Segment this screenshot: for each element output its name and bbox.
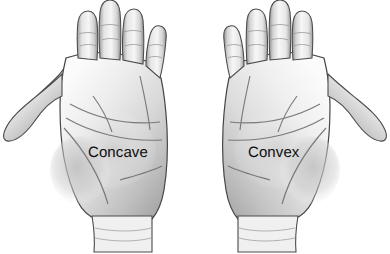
right-thenar-eminence [328,74,386,141]
label-convex: Convex [248,145,299,160]
hand-panel-convex [195,0,390,254]
left-thenar-eminence [4,74,62,141]
right-finger-middle [269,0,291,60]
left-hand-illustration [0,0,195,254]
left-hand-body [4,0,168,252]
right-wrist [238,216,298,252]
left-finger-ring [123,9,144,64]
figure-root: Concave Convex [0,0,390,254]
hand-panel-concave [0,0,195,254]
right-finger-ring [246,9,267,64]
right-hand-body [223,0,387,252]
label-concave: Concave [88,145,148,160]
left-wrist [92,216,152,252]
left-finger-middle [99,0,121,60]
right-hand-illustration [195,0,390,254]
right-finger-index [292,11,313,60]
left-finger-index [77,11,98,60]
